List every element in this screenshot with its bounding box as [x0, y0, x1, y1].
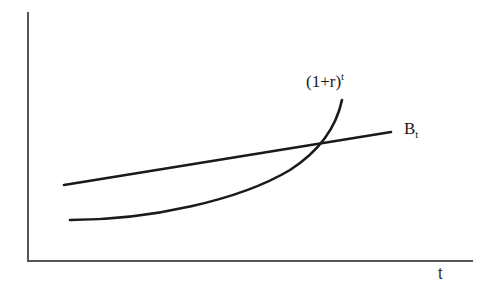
line-label: Bt	[404, 120, 418, 137]
diagram-canvas	[0, 0, 491, 294]
line-label-base: B	[404, 119, 415, 138]
line-label-subscript: t	[415, 128, 418, 140]
curve-label: (1+r)t	[306, 73, 344, 90]
curve-label-base: (1+r)	[306, 72, 341, 91]
b-t-line	[64, 132, 391, 185]
curve-label-exponent: t	[341, 70, 344, 82]
exponential-curve	[70, 100, 342, 220]
x-axis-label: t	[438, 266, 442, 282]
